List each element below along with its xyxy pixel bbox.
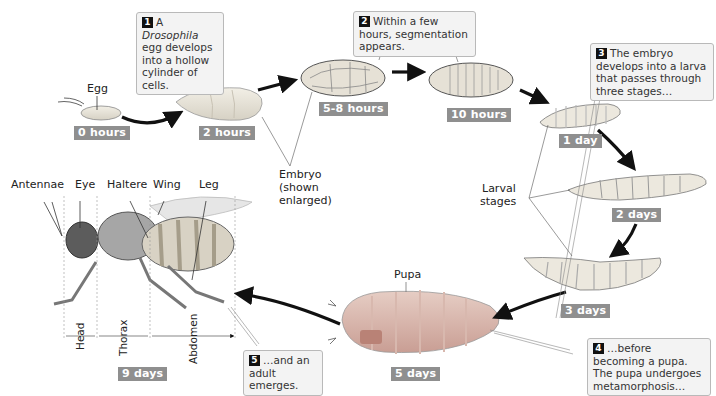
egg-illustration [58, 96, 121, 120]
pupa-label: Pupa [394, 268, 421, 281]
callout-3: 3The embryo develops into a larva that p… [590, 43, 714, 101]
larval-stages-label-line2: stages [480, 195, 516, 208]
callout-4: 4…before becoming a pupa. The pupa under… [587, 338, 711, 396]
head-label: Head [74, 323, 86, 350]
antennae-label: Antennae [11, 178, 64, 191]
embryo-label-line2: (shown [279, 181, 319, 194]
embryo-5-8h-illustration [301, 60, 385, 96]
abdomen-label: Abdomen [187, 314, 199, 364]
thorax-label: Thorax [117, 320, 129, 356]
step-number-2: 2 [359, 16, 370, 27]
larva-1day-illustration [540, 104, 620, 128]
leg-label: Leg [199, 178, 219, 191]
time-badge-10h: 10 hours [447, 108, 511, 122]
time-badge-5days: 5 days [391, 367, 440, 381]
embryo-label-line3: enlarged) [279, 194, 332, 207]
callout-1: 1A Drosophila egg develops into a hollow… [136, 12, 224, 95]
egg-label: Egg [87, 82, 108, 95]
time-badge-9days: 9 days [118, 367, 167, 381]
adult-fly-illustration [44, 196, 252, 338]
step-number-5: 5 [249, 355, 260, 366]
embryo-10h-illustration [429, 63, 513, 97]
time-badge-5-8h: 5-8 hours [319, 102, 388, 116]
wing-label: Wing [153, 178, 181, 191]
step-number-4: 4 [593, 343, 604, 354]
step-number-3: 3 [596, 48, 607, 59]
time-badge-2days: 2 days [612, 208, 661, 222]
callout-5: 5…and an adult emerges. [243, 350, 323, 396]
time-badge-2h: 2 hours [199, 126, 255, 140]
haltere-label: Haltere [107, 178, 147, 191]
embryo-label-line1: Embryo [279, 168, 321, 181]
larva-2days-illustration [568, 174, 706, 200]
larval-stages-label-line1: Larval [482, 182, 516, 195]
larva-3days-illustration [524, 258, 661, 291]
time-badge-3days: 3 days [561, 304, 610, 318]
eye-label: Eye [75, 178, 95, 191]
pupa-illustration [328, 282, 499, 354]
callout-2: 2Within a few hours, segmentation appear… [353, 11, 476, 57]
step-number-1: 1 [142, 17, 153, 28]
time-badge-0h: 0 hours [74, 126, 130, 140]
time-badge-1day: 1 day [559, 134, 602, 148]
